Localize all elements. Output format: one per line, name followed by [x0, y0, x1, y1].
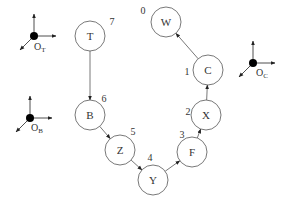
frame-label: OB: [31, 122, 43, 135]
node-label: Y: [149, 174, 157, 186]
pose-graph-diagram: T7B6Z5Y4F3X2C1W0 OTOBOC: [0, 0, 288, 199]
node-y: Y4: [138, 152, 168, 195]
node-c: C1: [185, 55, 224, 85]
node-label: F: [189, 146, 195, 158]
node-label: Z: [117, 144, 124, 156]
node-x: X2: [186, 100, 222, 130]
frames-group: OTOBOC: [16, 14, 275, 135]
coordinate-frame-icon-oc: OC: [239, 41, 275, 80]
order-number: 5: [131, 126, 136, 137]
edge-b-to-z: [100, 126, 110, 138]
edge-c-to-w: [176, 33, 198, 58]
frame-origin-dot: [30, 32, 38, 40]
order-number: 2: [186, 106, 191, 117]
edge-z-to-y: [131, 160, 142, 170]
order-number: 4: [148, 152, 153, 163]
node-t: T7: [75, 16, 115, 51]
order-number: 7: [110, 16, 115, 27]
order-number: 6: [102, 93, 107, 104]
node-label: B: [86, 109, 93, 121]
node-label: X: [202, 109, 210, 121]
coordinate-frame-icon-ot: OT: [20, 14, 56, 54]
order-number: 1: [185, 66, 190, 77]
order-number: 0: [141, 5, 146, 16]
node-label: W: [161, 16, 172, 28]
coordinate-frame-icon-ob: OB: [16, 96, 52, 135]
node-f: F3: [177, 129, 207, 167]
edge-f-to-x: [197, 129, 200, 138]
edge-y-to-f: [165, 161, 180, 172]
node-w: W0: [141, 5, 182, 37]
node-label: C: [204, 64, 211, 76]
frame-label: OT: [34, 41, 46, 54]
frame-origin-dot: [249, 59, 257, 67]
node-z: Z5: [105, 126, 136, 165]
frame-origin-dot: [26, 114, 34, 122]
frame-label: OC: [256, 67, 268, 80]
node-b: B6: [75, 93, 107, 130]
order-number: 3: [180, 129, 185, 140]
edge-x-to-c: [207, 85, 208, 100]
node-label: T: [87, 30, 94, 42]
nodes-group: T7B6Z5Y4F3X2C1W0: [75, 5, 223, 195]
